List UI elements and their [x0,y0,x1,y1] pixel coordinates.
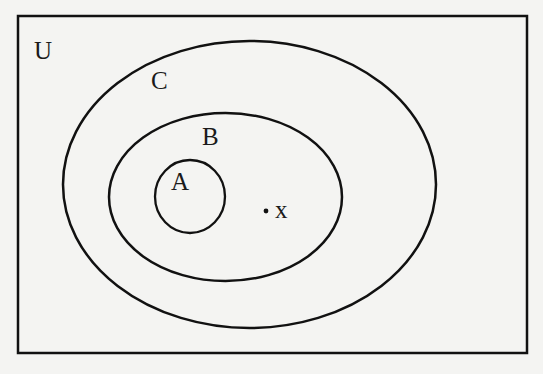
set-c-label: C [151,67,168,94]
venn-diagram: U C B A x [0,0,543,374]
universe-label: U [34,37,52,64]
element-x-dot [264,209,269,214]
set-b-label: B [202,123,219,150]
universe-rectangle [18,16,527,353]
element-x-label: x [275,196,288,223]
set-a-ellipse [155,160,225,233]
set-a-label: A [171,168,189,195]
set-c-ellipse [63,41,436,328]
